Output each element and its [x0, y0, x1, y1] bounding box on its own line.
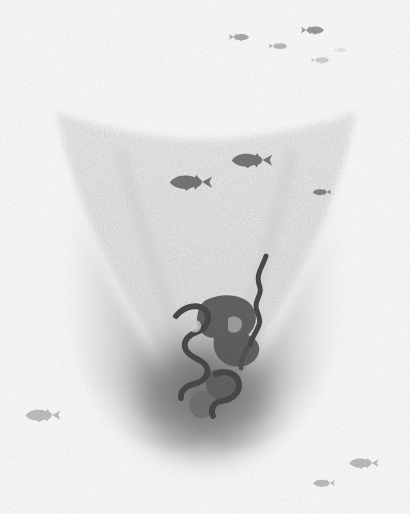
illustration-canvas: Monochrome textured illustration of a fu… [0, 0, 410, 514]
scene-graphics [0, 0, 410, 514]
